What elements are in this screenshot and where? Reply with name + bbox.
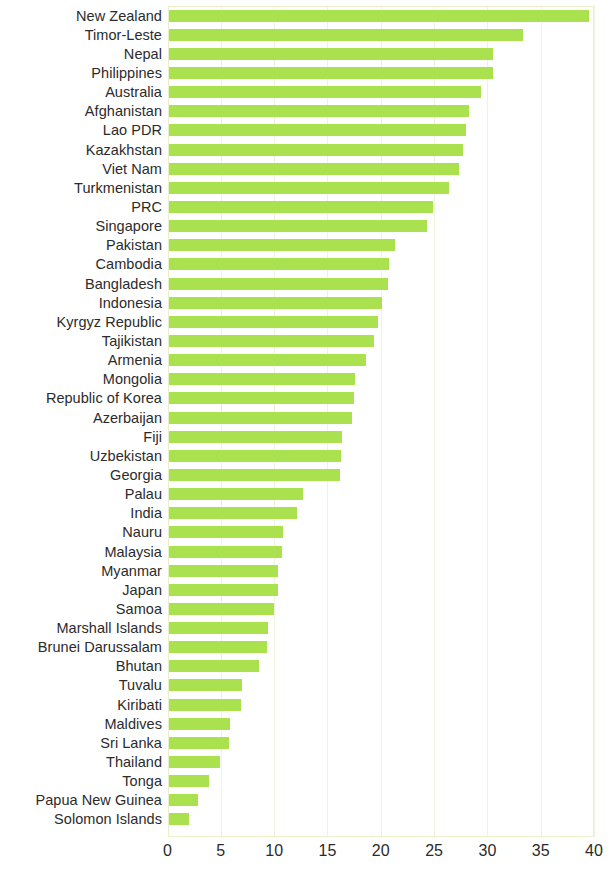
bar: [168, 182, 449, 194]
x-tick-label: 20: [372, 843, 390, 859]
bar: [168, 144, 463, 156]
category-label: Brunei Darussalam: [38, 640, 162, 655]
x-tick-label: 25: [425, 843, 443, 859]
category-label: Maldives: [104, 717, 162, 732]
bar-row: Samoa: [0, 599, 614, 618]
category-label: India: [130, 506, 162, 521]
category-label: Bangladesh: [85, 276, 162, 291]
category-label: Tonga: [122, 774, 162, 789]
category-label: Azerbaijan: [93, 410, 162, 425]
bar: [168, 679, 243, 691]
bar-row: Lao PDR: [0, 121, 614, 140]
bar-row: Fiji: [0, 427, 614, 446]
bar-row: Pakistan: [0, 236, 614, 255]
bar: [168, 813, 189, 825]
bar: [168, 603, 275, 615]
bar: [168, 412, 352, 424]
bar-row: Japan: [0, 580, 614, 599]
category-label: Singapore: [95, 219, 162, 234]
bar: [168, 67, 493, 79]
category-label: Myanmar: [101, 563, 162, 578]
bar-row: Georgia: [0, 465, 614, 484]
category-label: Philippines: [91, 66, 162, 81]
category-label: Timor-Leste: [85, 27, 162, 42]
category-label: Georgia: [110, 468, 162, 483]
bar: [168, 622, 268, 634]
x-tick-label: 5: [216, 843, 225, 859]
bar-row: Kazakhstan: [0, 140, 614, 159]
bar: [168, 278, 389, 290]
category-label: Samoa: [116, 602, 162, 617]
category-label: Turkmenistan: [74, 181, 162, 196]
bar-row: Viet Nam: [0, 159, 614, 178]
category-label: Republic of Korea: [46, 391, 162, 406]
bar: [168, 641, 267, 653]
category-label: Cambodia: [96, 257, 163, 272]
bar: [168, 584, 279, 596]
bar-row: New Zealand: [0, 6, 614, 25]
bar-row: Thailand: [0, 752, 614, 771]
category-label: Armenia: [108, 353, 162, 368]
bar-row: Nepal: [0, 44, 614, 63]
bar: [168, 718, 231, 730]
bar-row: Uzbekistan: [0, 446, 614, 465]
bar-row: Bangladesh: [0, 274, 614, 293]
bar: [168, 316, 378, 328]
category-label: Solomon Islands: [54, 812, 162, 827]
bar: [168, 163, 459, 175]
category-label: Indonesia: [99, 295, 162, 310]
bar-row: Solomon Islands: [0, 810, 614, 829]
x-axis-tick-labels: 0510152025303540: [0, 843, 614, 873]
bar-row: Cambodia: [0, 255, 614, 274]
category-label: Mongolia: [103, 372, 162, 387]
bar: [168, 660, 260, 672]
bar: [168, 756, 220, 768]
bar-row: Republic of Korea: [0, 389, 614, 408]
category-label: Australia: [105, 85, 162, 100]
bar-row: Brunei Darussalam: [0, 638, 614, 657]
bar-row: Palau: [0, 485, 614, 504]
bar: [168, 29, 523, 41]
bar-row: Timor-Leste: [0, 25, 614, 44]
plot-area: New ZealandTimor-LesteNepalPhilippinesAu…: [0, 0, 614, 878]
category-label: Nepal: [124, 47, 162, 62]
bar-rows: New ZealandTimor-LesteNepalPhilippinesAu…: [0, 6, 614, 829]
bar-row: Azerbaijan: [0, 408, 614, 427]
bar: [168, 48, 493, 60]
bar-row: Kyrgyz Republic: [0, 312, 614, 331]
bar: [168, 507, 297, 519]
bar-row: Australia: [0, 83, 614, 102]
bar: [168, 488, 303, 500]
category-label: Thailand: [106, 755, 162, 770]
bar: [168, 239, 395, 251]
category-label: Fiji: [143, 429, 162, 444]
bar-row: Singapore: [0, 217, 614, 236]
category-label: Palau: [125, 487, 162, 502]
bar-row: Tajikistan: [0, 331, 614, 350]
bar-row: Sri Lanka: [0, 733, 614, 752]
category-label: Nauru: [122, 525, 162, 540]
bar: [168, 354, 366, 366]
category-label: Pakistan: [106, 238, 162, 253]
bar-row: Tonga: [0, 772, 614, 791]
bar-row: Afghanistan: [0, 102, 614, 121]
bar-row: Marshall Islands: [0, 619, 614, 638]
x-tick-label: 10: [265, 843, 283, 859]
bar-row: Kiribati: [0, 695, 614, 714]
bar: [168, 469, 341, 481]
category-label: Viet Nam: [102, 161, 162, 176]
bar-row: Malaysia: [0, 542, 614, 561]
bar: [168, 124, 467, 136]
x-tick-label: 30: [478, 843, 496, 859]
bar: [168, 794, 199, 806]
bar: [168, 699, 242, 711]
bar: [168, 526, 283, 538]
bar: [168, 297, 382, 309]
bar-row: Papua New Guinea: [0, 791, 614, 810]
bar-row: Bhutan: [0, 657, 614, 676]
bar: [168, 220, 427, 232]
bar: [168, 775, 210, 787]
category-label: Bhutan: [116, 659, 162, 674]
bar: [168, 392, 355, 404]
bar: [168, 373, 356, 385]
